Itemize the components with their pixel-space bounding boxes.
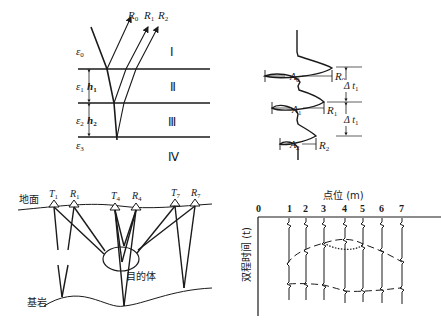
epsilon-2-label: ε2 [76,114,84,128]
amplitude-a2-label: A2 [289,139,300,152]
panel-layered-model: R0 R1 R2 Ⅰ Ⅱ Ⅲ Ⅳ ε0 ε1 ε2 ε3 h1 h2 [76,9,210,164]
epsilon-1-label: ε1 [76,80,84,94]
antenna-t7 [170,199,180,206]
bedrock-line [44,288,212,306]
antenna-label-t4: T4 [111,190,121,203]
layer-label-2: Ⅱ [170,80,176,94]
ray-label-r1: R1 [143,9,155,23]
x-tick-1: 1 [287,203,292,214]
x-tick-7: 7 [399,203,404,214]
bedrock-label: 基岩 [27,296,47,308]
antenna-t1 [49,200,59,207]
target-top-dotted [324,243,363,249]
x-tick-4: 4 [342,203,347,214]
layer-label-1: Ⅰ [170,45,174,59]
antenna-label-r1: R1 [69,188,80,201]
amplitude-a1-label: A1 [291,104,302,117]
survey-ray-paths [54,206,195,306]
thickness-h1-label: h1 [87,80,97,94]
antenna-label-t1: T1 [49,188,59,201]
antenna-label-r4: R4 [131,190,142,203]
x-tick-5: 5 [360,203,365,214]
reflection-r2-label: R2 [318,139,330,153]
panel-radar-profile: 点位 (m) 0 1 2 3 4 5 6 7 双程时间 (t) [240,189,441,316]
gpr-principle-figure: R0 R1 R2 Ⅰ Ⅱ Ⅲ Ⅳ ε0 ε1 ε2 ε3 h1 h2 A0 A1 [0,0,441,324]
reflected-ray-r0 [107,17,131,69]
x-tick-0: 0 [256,203,261,214]
epsilon-3-label: ε3 [76,139,84,153]
antenna-label-r7: R7 [190,187,201,200]
reflected-ray-r1 [114,27,148,103]
ray-label-r2: R2 [157,9,169,23]
amplitude-a0-label: A0 [289,71,300,84]
antenna-t4 [110,203,120,210]
antenna-r4 [131,203,141,210]
antenna-r1 [69,200,79,207]
epsilon-0-label: ε0 [76,45,84,59]
antenna-label-t7: T7 [171,187,181,200]
y-axis-title: 双程时间 (t) [240,227,252,282]
ray-label-r0: R0 [127,9,139,23]
panel-field-survey: 地面 基岩 目的体 T1 R1 T4 R4 T7 R7 [18,187,212,308]
thickness-h2-label: h2 [87,114,97,128]
x-tick-6: 6 [379,203,384,214]
target-label: 目的体 [126,270,156,282]
ground-label: 地面 [19,193,39,205]
reflected-ray-r2 [117,27,158,137]
reflection-r1-label: R1 [326,104,338,118]
x-tick-3: 3 [321,203,326,214]
antenna-r7 [190,199,200,206]
layer-label-3: Ⅲ [168,115,176,129]
x-axis-title: 点位 (m) [323,189,364,201]
panel-waveform-trace: A0 A1 A2 R0 R1 R2 Δ t1 Δ t1 [265,30,368,160]
layer-label-4: Ⅳ [168,150,179,164]
x-tick-2: 2 [303,203,308,214]
